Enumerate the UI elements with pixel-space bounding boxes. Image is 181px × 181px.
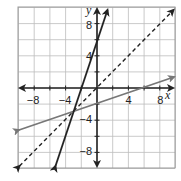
x-tick-label-neg4: −4 [59,94,72,106]
y-axis-label: y [85,3,92,17]
y-tick-label-8: 8 [86,19,92,31]
y-tick-label-neg8: −8 [79,145,92,157]
coordinate-plane: −8 −4 4 8 8 4 −4 −8 x y [0,0,181,181]
y-tick-label-neg4: −4 [79,113,92,125]
x-tick-label-neg8: −8 [27,94,40,106]
x-tick-label-8: 8 [157,94,163,106]
x-tick-label-4: 4 [126,94,132,106]
x-axis-label: x [164,88,171,102]
